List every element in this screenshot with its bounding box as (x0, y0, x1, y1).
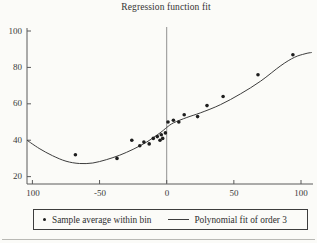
legend-item-sample-average: Sample average within bin (43, 215, 151, 225)
y-tick-label-100: 100 (2, 26, 22, 37)
legend: Sample average within bin Polynomial fit… (33, 209, 308, 230)
x-tick-label-neg100: 100 (18, 188, 48, 199)
y-tick-label-60: 60 (2, 98, 22, 109)
x-tick-label-100: 100 (286, 188, 316, 199)
regression-figure: Regression function fit 100 80 60 40 20 … (0, 0, 317, 243)
x-tick-label-50: 50 (219, 188, 249, 199)
y-tick-label-20: 20 (2, 171, 22, 182)
plot-area (0, 0, 317, 243)
legend-label-sample-average: Sample average within bin (52, 215, 151, 225)
x-tick-label-neg50: -50 (85, 188, 115, 199)
y-tick-label-40: 40 (2, 135, 22, 146)
y-tick-label-80: 80 (2, 62, 22, 73)
legend-label-polynomial-fit: Polynomial fit of order 3 (194, 215, 286, 225)
x-tick-label-0: 0 (152, 188, 182, 199)
bottom-divider (2, 239, 315, 240)
line-marker-icon (168, 219, 189, 220)
dot-marker-icon (43, 218, 46, 221)
legend-item-polynomial-fit: Polynomial fit of order 3 (168, 215, 286, 225)
